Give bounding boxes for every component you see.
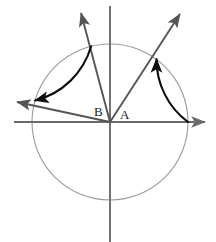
arc-a (156, 59, 188, 122)
angle-label-a: A (120, 107, 130, 122)
diagram-canvas: A B (0, 0, 216, 242)
ray-a (110, 14, 180, 122)
arc-b (35, 46, 91, 100)
angle-label-b: B (94, 104, 103, 119)
unit-circle-diagram: A B (0, 0, 216, 242)
